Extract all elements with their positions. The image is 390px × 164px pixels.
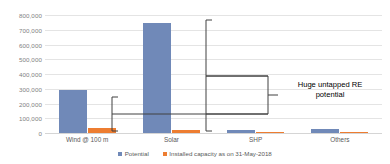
chart-legend: PotentialInstalled capacity as on 31-May… bbox=[0, 150, 390, 157]
bar-group bbox=[227, 15, 284, 133]
y-axis-labels: 0100,000200,000300,000400,000500,000600,… bbox=[0, 15, 42, 133]
bar-potential bbox=[59, 90, 87, 134]
y-axis-tick-label: 600,000 bbox=[19, 41, 42, 48]
legend-label: Potential bbox=[125, 150, 149, 157]
x-axis-tick-label: Solar bbox=[164, 136, 179, 143]
bar-installed bbox=[88, 128, 116, 133]
bar-installed bbox=[340, 132, 368, 133]
x-axis-tick-label: SHP bbox=[249, 136, 262, 143]
y-axis-tick-label: 200,000 bbox=[19, 100, 42, 107]
x-axis-tick-label: Others bbox=[330, 136, 349, 143]
bar-potential bbox=[227, 130, 255, 133]
annotation-label: Huge untapped RE potential bbox=[278, 80, 382, 101]
bar-installed bbox=[256, 132, 284, 133]
legend-label: Installed capacity as on 31-May-2018 bbox=[169, 150, 272, 157]
bar-group bbox=[311, 15, 368, 133]
plot-area bbox=[45, 15, 382, 133]
chart-container: 0100,000200,000300,000400,000500,000600,… bbox=[0, 0, 390, 164]
legend-swatch-icon bbox=[163, 152, 167, 156]
x-axis-labels: Wind @ 100 mSolarSHPOthers bbox=[45, 136, 382, 148]
bar-group bbox=[143, 15, 200, 133]
y-axis-tick-label: 100,000 bbox=[19, 115, 42, 122]
legend-item[interactable]: Installed capacity as on 31-May-2018 bbox=[163, 150, 272, 157]
bar-potential bbox=[143, 23, 171, 133]
y-axis-tick-label: 700,000 bbox=[19, 26, 42, 33]
y-axis-tick-label: 500,000 bbox=[19, 56, 42, 63]
x-axis-tick-label: Wind @ 100 m bbox=[66, 136, 108, 143]
y-axis-tick-label: 400,000 bbox=[19, 71, 42, 78]
y-axis-tick-label: 800,000 bbox=[19, 12, 42, 19]
gridline bbox=[45, 133, 382, 134]
y-axis-tick-label: 0 bbox=[38, 130, 42, 137]
y-axis-tick-label: 300,000 bbox=[19, 85, 42, 92]
bar-potential bbox=[311, 129, 339, 133]
legend-swatch-icon bbox=[118, 152, 122, 156]
bar-group bbox=[59, 15, 116, 133]
bar-installed bbox=[172, 130, 200, 133]
legend-item[interactable]: Potential bbox=[118, 150, 149, 157]
